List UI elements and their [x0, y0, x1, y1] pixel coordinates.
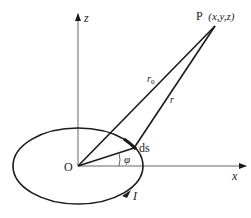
- r-label: r: [170, 94, 174, 105]
- r0-label: r0: [147, 73, 155, 86]
- origin-label: O: [64, 160, 73, 174]
- x-axis-label: x: [231, 169, 238, 183]
- current-loop-diagram: z x I ds r0 r φ O P (x,y,z): [0, 0, 251, 218]
- phi-label: φ: [124, 153, 130, 165]
- current-label: I: [132, 189, 138, 203]
- point-p-label: P (x,y,z): [196, 9, 235, 23]
- z-axis-label: z: [83, 11, 89, 25]
- phi-arc: [119, 153, 120, 166]
- ds-label: ds: [139, 141, 150, 155]
- r-line: [134, 26, 215, 148]
